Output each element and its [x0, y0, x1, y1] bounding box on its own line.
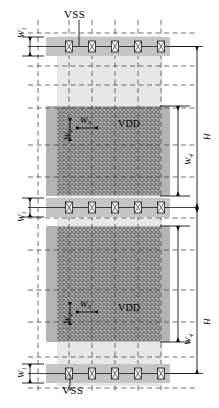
- label-vdd-lower: VDD: [118, 302, 140, 313]
- label-w1-bottom: W1: [16, 367, 28, 378]
- vdd-mesh-lower: [46, 226, 170, 342]
- label-w4-lower: W4: [183, 334, 195, 345]
- pdn-layout-figure: [0, 0, 219, 408]
- vdd-mesh-upper: [46, 106, 170, 196]
- label-vss-bottom: VSS: [62, 384, 83, 396]
- label-w1-top: W1: [16, 27, 28, 38]
- label-vdd-upper: VDD: [118, 118, 140, 129]
- label-w1-middle: W1: [16, 211, 28, 222]
- figure-caption: [0, 396, 219, 408]
- label-w3-upper: W3: [80, 115, 91, 127]
- label-vss-top: VSS: [64, 8, 85, 20]
- dimension-h-lower: [195, 208, 199, 374]
- dimension-h-upper: [195, 46, 199, 208]
- label-w2-lower: W2: [62, 313, 74, 324]
- label-w3-lower: W3: [80, 299, 91, 311]
- label-w4-upper: W4: [183, 154, 195, 165]
- label-h-lower: H: [202, 319, 212, 326]
- label-h-upper: H: [202, 134, 212, 141]
- label-w2-upper: W2: [62, 129, 74, 140]
